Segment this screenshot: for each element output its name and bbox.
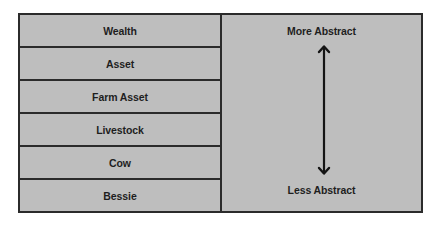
hierarchy-column: Wealth Asset Farm Asset Livestock Cow Be… — [20, 15, 222, 211]
level-cow: Cow — [20, 147, 220, 180]
more-abstract-label: More Abstract — [222, 25, 421, 37]
level-wealth: Wealth — [20, 15, 220, 48]
abstraction-ladder-diagram: Wealth Asset Farm Asset Livestock Cow Be… — [18, 13, 423, 213]
abstraction-scale-column: More Abstract Less Abstract — [222, 15, 421, 211]
double-headed-vertical-arrow-icon — [314, 43, 334, 177]
level-farm-asset: Farm Asset — [20, 81, 220, 114]
level-asset: Asset — [20, 48, 220, 81]
less-abstract-label: Less Abstract — [222, 184, 421, 196]
level-livestock: Livestock — [20, 114, 220, 147]
level-bessie: Bessie — [20, 180, 220, 211]
